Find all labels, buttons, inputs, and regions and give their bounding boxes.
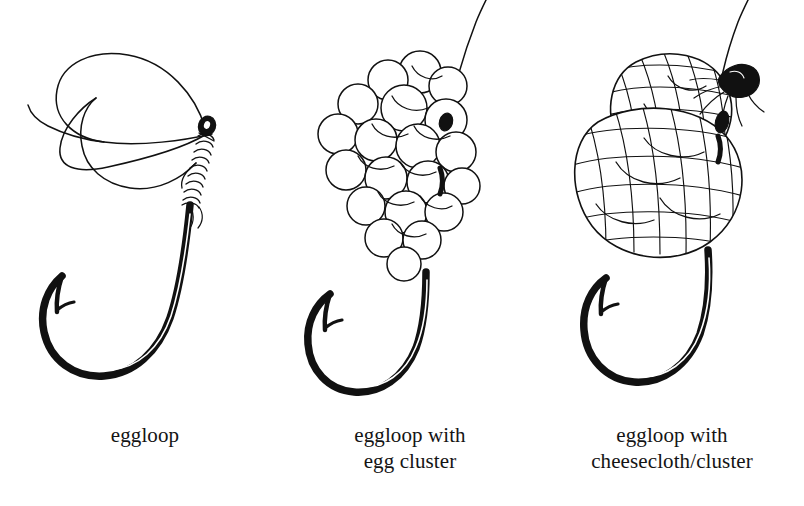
hook-shank-stroke	[43, 205, 190, 376]
wrapped-shank-knot	[440, 168, 442, 194]
hook-barb	[601, 304, 618, 312]
panel-caption: eggloop with egg cluster	[280, 423, 540, 474]
hook-shank-highlight	[640, 258, 710, 377]
eggloop-egg-cluster-illustration	[280, 0, 540, 410]
eggloop-cheesecloth-illustration	[540, 0, 804, 410]
hook	[43, 205, 190, 376]
monofilament-loop	[56, 54, 212, 189]
figure-panel-eggloop-cheesecloth-cluster: eggloop with cheesecloth/cluster	[540, 0, 804, 506]
wrapped-shank-knot	[718, 136, 720, 162]
figure-sheet: eggloop	[0, 0, 804, 506]
caption-line: egg cluster	[280, 449, 540, 475]
eggloop-illustration	[0, 0, 290, 410]
caption-line: cheesecloth/cluster	[540, 449, 804, 475]
figure-panel-eggloop-egg-cluster: eggloop with egg cluster	[280, 0, 540, 506]
caption-line: eggloop with	[540, 423, 804, 449]
knot-loose-end-a	[198, 207, 202, 228]
panel-caption: eggloop with cheesecloth/cluster	[540, 423, 804, 474]
egg-cluster	[318, 51, 480, 281]
hook	[584, 250, 710, 382]
hook-barb	[325, 320, 342, 328]
hook-shank-highlight	[110, 214, 190, 370]
caption-line: eggloop with	[280, 423, 540, 449]
hook	[308, 272, 427, 392]
panel-caption: eggloop	[0, 423, 290, 449]
figure-panel-eggloop: eggloop	[0, 0, 290, 506]
caption-line: eggloop	[0, 423, 290, 449]
hook-barb	[57, 302, 74, 310]
hook-shank-stroke	[584, 250, 709, 382]
